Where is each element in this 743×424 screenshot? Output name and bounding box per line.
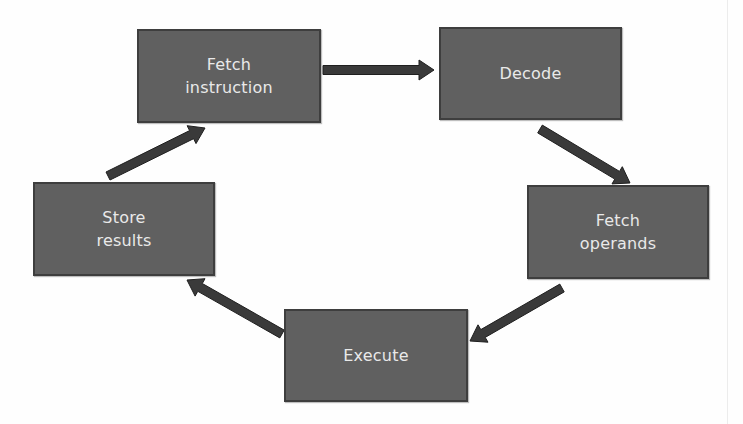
arrow-fetch-operands-to-execute-icon bbox=[470, 284, 564, 342]
node-decode: Decode bbox=[439, 27, 622, 120]
diagram-canvas: Fetch instruction Decode Fetch operands … bbox=[0, 0, 743, 424]
arrow-decode-to-fetch-operands-icon bbox=[538, 125, 630, 184]
node-label: Decode bbox=[500, 62, 562, 85]
node-fetch-operands: Fetch operands bbox=[527, 185, 709, 279]
node-execute: Execute bbox=[284, 309, 468, 402]
arrow-store-results-to-fetch-instruction-icon bbox=[106, 126, 205, 180]
page-edge-shading bbox=[727, 0, 728, 424]
node-label: Fetch instruction bbox=[185, 53, 273, 99]
node-label: Store results bbox=[96, 206, 151, 252]
arrow-execute-to-store-results-icon bbox=[187, 279, 284, 338]
arrow-fetch-instruction-to-decode-icon bbox=[323, 60, 434, 80]
node-label: Execute bbox=[343, 344, 408, 367]
node-label: Fetch operands bbox=[580, 209, 656, 255]
node-store-results: Store results bbox=[33, 182, 215, 276]
node-fetch-instruction: Fetch instruction bbox=[137, 29, 321, 123]
